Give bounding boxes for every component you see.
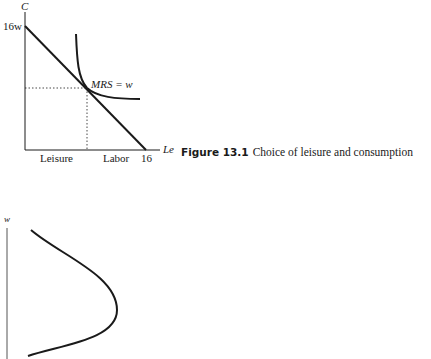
- labor-label: Labor: [103, 152, 130, 164]
- x-axis-label: Le: [162, 143, 174, 155]
- y-intercept-label: 16w: [3, 20, 22, 32]
- labor-supply-curve: [28, 230, 117, 356]
- w-axis-label: w: [4, 214, 10, 224]
- y-axis-label: C: [21, 0, 29, 12]
- figure-number: Figure 13.1: [181, 146, 249, 158]
- tangency-label: MRS = w: [90, 78, 133, 90]
- figure-canvas: C 16w MRS = w Le Leisure Labor 16 w: [0, 0, 431, 359]
- leisure-label: Leisure: [40, 152, 73, 164]
- figure-caption-text: Choice of leisure and consumption: [253, 146, 413, 158]
- figure-caption: Figure 13.1Choice of leisure and consump…: [181, 146, 413, 158]
- x-intercept-label: 16: [141, 152, 153, 164]
